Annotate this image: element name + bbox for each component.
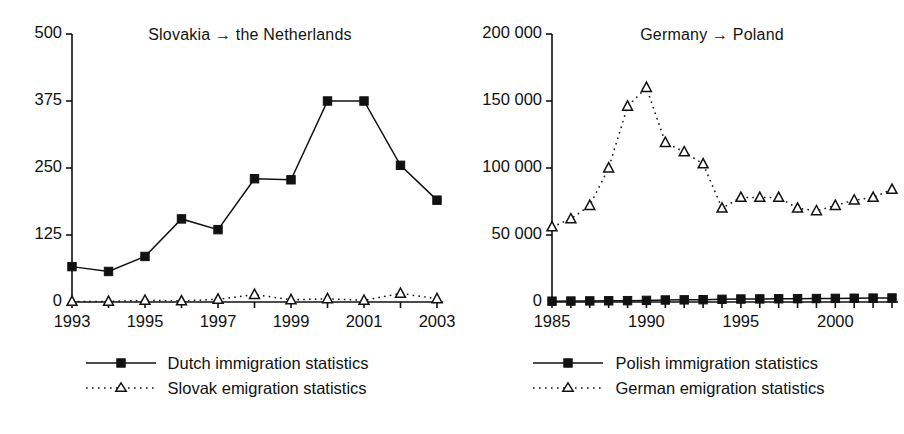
square-marker bbox=[850, 294, 858, 302]
square-marker bbox=[623, 296, 631, 304]
triangle-marker bbox=[679, 147, 689, 156]
legend-item[interactable]: Slovak emigration statistics bbox=[84, 377, 369, 399]
triangle-marker bbox=[698, 159, 708, 168]
y-axis-tick-label: 500 bbox=[34, 23, 62, 42]
square-marker bbox=[177, 215, 185, 223]
square-marker bbox=[548, 297, 556, 305]
triangle-marker bbox=[774, 192, 784, 201]
triangle-marker bbox=[547, 222, 557, 231]
triangle-marker bbox=[717, 203, 727, 212]
y-axis-tick-label: 100 000 bbox=[482, 157, 542, 176]
triangle-marker bbox=[585, 200, 595, 209]
legend-rows: Dutch immigration statisticsSlovak emigr… bbox=[84, 352, 369, 399]
legend-label: Polish immigration statistics bbox=[615, 354, 818, 373]
square-marker bbox=[433, 196, 441, 204]
triangle-marker bbox=[140, 295, 150, 304]
triangle-marker bbox=[432, 293, 442, 302]
x-axis-tick-label: 1993 bbox=[32, 312, 112, 331]
square-marker bbox=[360, 97, 368, 105]
legend-label: Dutch immigration statistics bbox=[168, 354, 369, 373]
legend-label: German emigration statistics bbox=[615, 379, 824, 398]
x-axis-tick-label: 2001 bbox=[324, 312, 404, 331]
triangle-marker bbox=[250, 289, 260, 298]
legend-sample-solid-square bbox=[531, 354, 605, 372]
triangle-marker bbox=[323, 293, 333, 302]
square-marker bbox=[68, 262, 76, 270]
x-axis-tick-label: 2000 bbox=[795, 312, 875, 331]
y-axis-tick-label: 150 000 bbox=[482, 90, 542, 109]
legend-left: Dutch immigration statisticsSlovak emigr… bbox=[0, 352, 452, 399]
triangle-marker bbox=[396, 288, 406, 297]
triangle-marker bbox=[566, 214, 576, 223]
x-axis-tick-label: 1999 bbox=[251, 312, 331, 331]
legend-sample-solid-square bbox=[84, 354, 158, 372]
triangle-marker bbox=[660, 137, 670, 146]
y-axis-tick-label: 250 bbox=[34, 157, 62, 176]
triangle-marker bbox=[793, 203, 803, 212]
legend-item[interactable]: Polish immigration statistics bbox=[531, 352, 824, 374]
square-marker bbox=[737, 295, 745, 303]
x-axis-tick-label: 1997 bbox=[178, 312, 258, 331]
triangle-marker bbox=[755, 192, 765, 201]
square-marker bbox=[661, 296, 669, 304]
legend-sample-dotted-triangle bbox=[531, 379, 605, 397]
triangle-marker bbox=[887, 184, 897, 193]
square-marker bbox=[869, 294, 877, 302]
square-marker bbox=[214, 225, 222, 233]
legend-item[interactable]: Dutch immigration statistics bbox=[84, 352, 369, 374]
square-marker bbox=[396, 161, 404, 169]
square-marker bbox=[250, 175, 258, 183]
square-marker bbox=[718, 295, 726, 303]
square-marker bbox=[642, 296, 650, 304]
y-axis-tick-label: 50 000 bbox=[492, 224, 542, 243]
triangle-marker bbox=[286, 294, 296, 303]
square-marker bbox=[567, 297, 575, 305]
figure-root: Slovakia → the Netherlands Dutch immigra… bbox=[0, 0, 904, 434]
square-marker bbox=[699, 296, 707, 304]
square-marker bbox=[287, 176, 295, 184]
y-axis-tick-label: 200 000 bbox=[482, 23, 542, 42]
triangle-marker bbox=[604, 163, 614, 172]
square-marker bbox=[604, 297, 612, 305]
square-marker bbox=[680, 296, 688, 304]
y-axis-tick-label: 0 bbox=[53, 291, 62, 310]
square-marker bbox=[141, 252, 149, 260]
plot-area-left bbox=[0, 0, 452, 340]
chart-panel-slovakia-netherlands: Slovakia → the Netherlands Dutch immigra… bbox=[0, 0, 452, 434]
legend-label: Slovak emigration statistics bbox=[168, 379, 367, 398]
triangle-marker bbox=[736, 192, 746, 201]
triangle-marker bbox=[830, 200, 840, 209]
triangle-marker bbox=[213, 294, 223, 303]
legend-sample-dotted-triangle bbox=[84, 379, 158, 397]
square-marker bbox=[888, 294, 896, 302]
square-marker bbox=[104, 267, 112, 275]
triangle-marker bbox=[67, 296, 77, 305]
x-axis-tick-label: 1985 bbox=[512, 312, 592, 331]
triangle-marker bbox=[641, 82, 651, 91]
series-line-solid bbox=[72, 101, 437, 271]
y-axis-tick-label: 0 bbox=[533, 291, 542, 310]
square-marker bbox=[323, 97, 331, 105]
triangle-marker bbox=[177, 296, 187, 305]
triangle-marker bbox=[623, 101, 633, 110]
square-marker bbox=[812, 294, 820, 302]
square-marker bbox=[831, 294, 839, 302]
x-axis-tick-label: 1990 bbox=[606, 312, 686, 331]
y-axis-tick-label: 125 bbox=[34, 224, 62, 243]
triangle-marker bbox=[104, 296, 114, 305]
x-axis-tick-label: 1995 bbox=[105, 312, 185, 331]
square-marker bbox=[756, 295, 764, 303]
square-marker bbox=[586, 297, 594, 305]
legend-rows: Polish immigration statisticsGerman emig… bbox=[531, 352, 824, 399]
triangle-marker bbox=[849, 195, 859, 204]
y-axis-tick-label: 375 bbox=[34, 90, 62, 109]
chart-panel-germany-poland: Germany → Poland Polish immigration stat… bbox=[452, 0, 904, 434]
square-marker bbox=[774, 295, 782, 303]
square-marker bbox=[793, 294, 801, 302]
legend-item[interactable]: German emigration statistics bbox=[531, 377, 824, 399]
legend-right: Polish immigration statisticsGerman emig… bbox=[452, 352, 904, 399]
x-axis-tick-label: 1995 bbox=[701, 312, 781, 331]
